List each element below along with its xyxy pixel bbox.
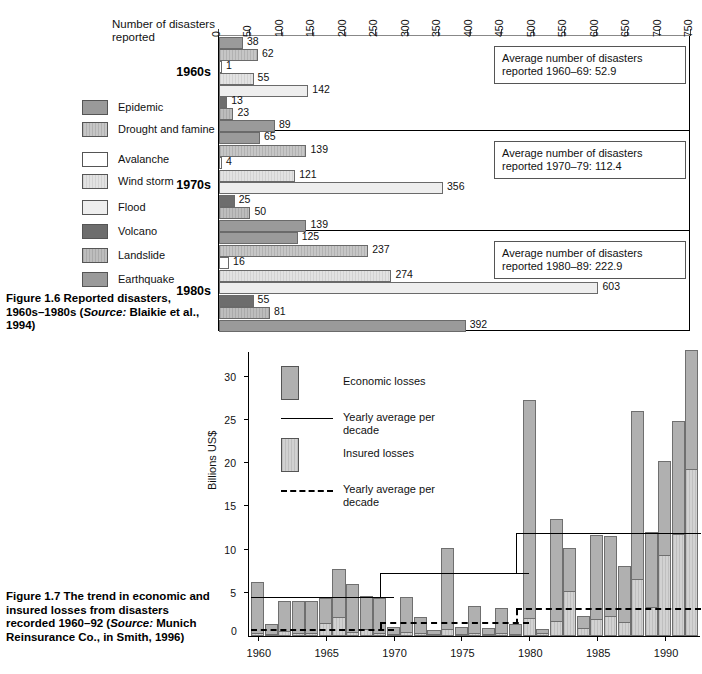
insured-loss-bar: [251, 633, 264, 636]
legend-label: Insured losses: [343, 447, 458, 460]
top-chart-plot-area: 38621551421323891960sAverage number of d…: [218, 36, 690, 331]
legend-swatch-avalanche: [82, 152, 108, 167]
x-axis-tick-label: 1970: [382, 647, 406, 659]
legend-label: Yearly average per decade: [343, 483, 458, 508]
legend-swatch-earthquake: [82, 272, 108, 287]
y-axis-tick-label: 10: [224, 544, 236, 556]
bar-value-label: 62: [262, 47, 274, 59]
legend-label: Economic losses: [343, 375, 458, 388]
y-axis-tick: 15: [244, 505, 249, 506]
economic-average-line: [516, 533, 701, 534]
insured-loss-bar: [278, 631, 291, 636]
x-axis-tick-label: 1980: [518, 647, 542, 659]
bar-row: 139: [219, 220, 689, 232]
disaster-bar: [219, 145, 306, 157]
y-axis-tick: 30: [244, 376, 249, 377]
legend-label-landslide: Landslide: [118, 249, 218, 262]
insured-average-line: [251, 629, 394, 631]
x-axis-tick-label: 500: [525, 19, 537, 37]
x-axis-tick-label: 750: [682, 19, 694, 37]
bar-value-label: 139: [310, 143, 328, 155]
bar-row: 142: [219, 85, 689, 97]
legend-label-volcano: Volcano: [118, 225, 218, 238]
legend-label-drought: Drought and famine: [118, 123, 218, 136]
bar-value-label: 55: [258, 71, 270, 83]
legend-label-wind: Wind storm: [118, 175, 218, 188]
x-axis-tick-label: 1990: [654, 647, 678, 659]
bottom-chart-plot-area: Economic lossesYearly average per decade…: [248, 352, 700, 637]
bar-value-label: 139: [310, 218, 328, 230]
disaster-bar: [219, 232, 298, 244]
disaster-bar: [219, 320, 466, 332]
insured-loss-bar: [441, 629, 454, 636]
legend-line-insured-average: [281, 490, 333, 492]
bar-row: 50: [219, 207, 689, 219]
bottom-chart-y-axis-label: Billions US$: [206, 431, 218, 490]
x-axis-tick: 1965: [326, 636, 327, 641]
disaster-bar: [219, 157, 222, 169]
y-axis-tick-label: 30: [224, 371, 236, 383]
x-axis-tick: 1970: [394, 636, 395, 641]
disaster-bar: [219, 182, 443, 194]
x-axis-tick: 1985: [597, 636, 598, 641]
bar-row: 81: [219, 307, 689, 319]
x-axis-tick-label: 300: [399, 19, 411, 37]
figure-1-7-caption: Figure 1.7 The trend in economic and ins…: [6, 590, 216, 644]
disaster-bar: [219, 220, 306, 232]
insured-loss-bar: [645, 607, 658, 636]
bar-value-label: 13: [231, 94, 243, 106]
insured-loss-bar: [523, 618, 536, 636]
x-axis-tick-label: 700: [651, 19, 663, 37]
decade-average-note: Average number of disasters reported 198…: [494, 241, 686, 279]
legend-swatch-volcano: [82, 224, 108, 239]
bar-value-label: 81: [274, 305, 286, 317]
x-axis-tick: 1960: [258, 636, 259, 641]
figure-1-6-caption: Figure 1.6 Reported disasters, 1960s–198…: [6, 292, 211, 333]
disaster-bar: [219, 257, 229, 269]
disaster-bar: [219, 282, 598, 294]
x-axis-tick: 1975: [461, 636, 462, 641]
disaster-bar: [219, 49, 258, 61]
insured-loss-bar: [577, 628, 590, 636]
y-axis-tick: 10: [244, 549, 249, 550]
disaster-bar: [219, 108, 233, 120]
bar-value-label: 392: [470, 318, 488, 330]
insured-loss-bar: [265, 634, 278, 636]
y-axis-zero-label: 0: [231, 625, 241, 637]
bar-row: 356: [219, 182, 689, 194]
insured-loss-bar: [536, 633, 549, 636]
legend-label-flood: Flood: [118, 201, 218, 214]
economic-average-step: [516, 534, 517, 574]
bar-value-label: 89: [279, 118, 291, 130]
y-axis-tick-label: 5: [230, 587, 236, 599]
bar-value-label: 25: [239, 193, 251, 205]
insured-loss-bar: [414, 633, 427, 636]
disaster-bar: [219, 270, 391, 282]
insured-loss-bar: [482, 634, 495, 636]
economic-loss-bar: [523, 400, 536, 636]
y-axis-tick: 25: [244, 419, 249, 420]
top-chart-axis-title: Number of disasters reported: [112, 18, 222, 44]
economic-loss-bar: [550, 519, 563, 636]
economic-average-step: [380, 574, 381, 598]
economic-loss-bar: [400, 597, 413, 636]
legend-swatch-landslide: [82, 248, 108, 263]
figure-1-7: Billions US$ Economic lossesYearly avera…: [0, 340, 702, 674]
insured-average-step: [516, 610, 518, 624]
bar-row: 392: [219, 320, 689, 332]
bar-value-label: 121: [299, 168, 317, 180]
bar-value-label: 603: [602, 280, 620, 292]
bar-row: 55: [219, 295, 689, 307]
insured-average-line: [516, 608, 701, 610]
decade-average-note: Average number of disasters reported 197…: [494, 141, 686, 179]
insured-average-line: [380, 622, 529, 624]
bar-row: 25: [219, 195, 689, 207]
figure-1-6: Number of disasters reported 05010015020…: [0, 0, 702, 340]
bar-value-label: 237: [372, 243, 390, 255]
x-axis-tick-label: 550: [556, 19, 568, 37]
y-axis-tick: 20: [244, 462, 249, 463]
bar-value-label: 50: [254, 205, 266, 217]
economic-loss-bar: [251, 582, 264, 636]
insured-loss-bar: [387, 634, 400, 636]
legend-label: Yearly average per decade: [343, 411, 458, 436]
